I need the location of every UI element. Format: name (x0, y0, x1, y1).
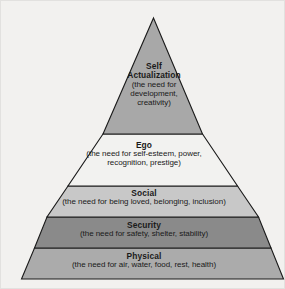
pyramid-tier-security-label: Security (the need for safety, shelter, … (31, 221, 257, 239)
pyramid-tier-ego-label: Ego (the need for self-esteem, power, re… (54, 141, 234, 168)
pyramid-tier-physical-label: Physical (the need for air, water, food,… (21, 252, 267, 270)
tier-desc-ego-line2: recognition, prestige) (54, 159, 234, 168)
pyramid-tier-social-label: Social (the need for being loved, belong… (29, 189, 259, 207)
tier-desc-physical-line1: (the need for air, water, food, rest, he… (21, 261, 267, 270)
tier-desc-security-line1: (the need for safety, shelter, stability… (31, 230, 257, 239)
maslow-pyramid-figure: Self Actualization (the need for develop… (0, 0, 285, 289)
tier-desc-social-line1: (the need for being loved, belonging, in… (29, 198, 259, 207)
pyramid-tier-self-actualization-label: Self Actualization (the need for develop… (94, 62, 214, 108)
pyramid-label-layer: Self Actualization (the need for develop… (1, 1, 285, 289)
tier-desc-self-actualization-line3: creativity) (94, 99, 214, 108)
